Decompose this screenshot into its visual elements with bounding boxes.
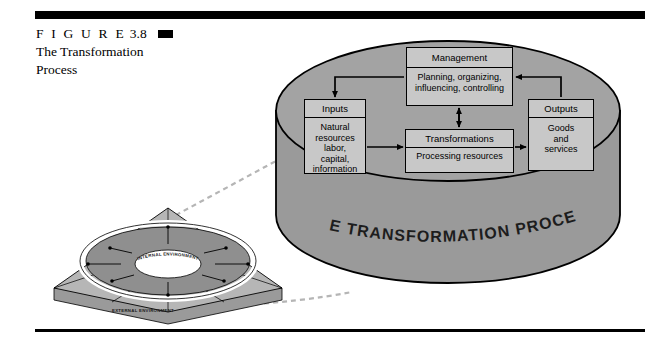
box-management-body-line-1: Planning, organizing,	[409, 72, 510, 83]
box-transformations[interactable]: Transformations Processing resources	[405, 129, 514, 173]
box-inputs-body-line-2: resources	[307, 133, 363, 144]
bottom-rule	[35, 329, 645, 332]
box-transformations-body: Processing resources	[406, 148, 513, 165]
box-inputs-body-line-1: Natural	[307, 122, 363, 133]
arrow-outputs-to-management	[516, 77, 561, 97]
box-transformations-header: Transformations	[406, 130, 513, 148]
box-management[interactable]: Management Planning, organizing, influen…	[406, 47, 513, 106]
box-inputs-body: Natural resources labor, capital, inform…	[305, 118, 365, 179]
box-outputs-body-line-1: Goods	[531, 123, 591, 134]
arrow-management-to-inputs	[335, 77, 404, 97]
box-inputs-body-line-3: labor,	[307, 143, 363, 154]
box-inputs-header: Inputs	[305, 100, 365, 118]
box-outputs-header: Outputs	[529, 100, 593, 118]
box-inputs-body-line-5: information	[307, 164, 363, 175]
box-outputs-body-line-2: and	[531, 134, 591, 145]
box-inputs[interactable]: Inputs Natural resources labor, capital,…	[304, 99, 366, 174]
box-outputs-body-line-3: services	[531, 144, 591, 155]
box-management-body: Planning, organizing, influencing, contr…	[407, 68, 512, 97]
box-inputs-body-line-4: capital,	[307, 154, 363, 165]
box-outputs-body: Goods and services	[529, 118, 593, 160]
box-management-body-line-2: influencing, controlling	[409, 83, 510, 94]
box-management-header: Management	[407, 48, 512, 68]
figure-page: F I G U R E 3.8 The Transformation Proce…	[0, 0, 663, 343]
box-outputs[interactable]: Outputs Goods and services	[528, 99, 594, 171]
